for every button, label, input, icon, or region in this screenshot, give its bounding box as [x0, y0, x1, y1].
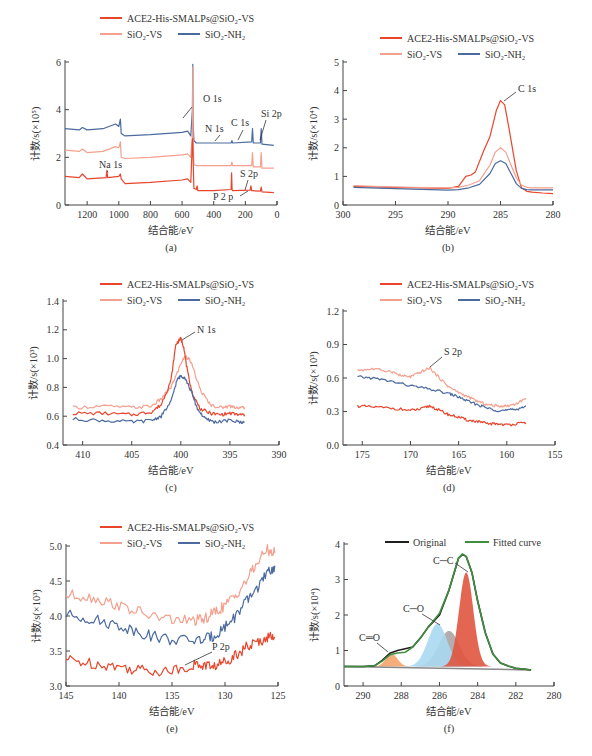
x-tick-label: 170: [403, 449, 418, 460]
x-tick-label: 0: [275, 209, 280, 220]
x-tick-label: 280: [547, 690, 562, 701]
annotation-leader: [430, 357, 442, 367]
y-tick-label: 0: [335, 681, 340, 692]
y-axis-label: 计数/s(×10³): [27, 346, 40, 400]
x-axis-label: 结合能/eV: [425, 224, 471, 236]
x-tick-label: 410: [75, 449, 90, 460]
annotation-leader: [182, 332, 195, 340]
x-tick-label: 165: [451, 449, 466, 460]
y-tick-label: 1.4: [47, 296, 60, 307]
y-tick-label: 3.0: [50, 681, 63, 692]
x-tick-label: 1200: [77, 209, 97, 220]
y-tick-label: 4.5: [50, 576, 63, 587]
legend-label-original: Original: [413, 537, 447, 548]
chart-panel-b: 300295290285280012345结合能/eV计数/s(×10⁴)(b)…: [307, 33, 561, 255]
x-tick-label: 395: [222, 449, 237, 460]
x-tick-label: 290: [441, 209, 456, 220]
y-tick-label: 3: [334, 114, 339, 125]
x-tick-label: 288: [394, 690, 409, 701]
x-tick-label: 175: [355, 449, 370, 460]
x-tick-label: 285: [493, 209, 508, 220]
peak-annotation: P 2p: [212, 641, 230, 652]
peak-annotation: N 1s: [197, 324, 216, 335]
xps-figure: 1200100080060040020000246结合能/eV计数/s(×10⁵…: [0, 0, 592, 756]
x-tick-label: 1000: [109, 209, 129, 220]
series-line-sio2_vs: [73, 356, 245, 409]
legend: ACE2-His-SMALPs@SiO₂-VSSiO₂-VSSiO₂-NH₂: [100, 522, 254, 549]
y-tick-label: 1: [334, 171, 339, 182]
y-tick-label: 1.0: [47, 353, 60, 364]
y-tick-label: 1.2: [47, 324, 60, 335]
legend-label-fitted: Fitted curve: [493, 537, 542, 548]
series-line-sio2_nh2: [65, 64, 274, 145]
y-tick-label: 2: [335, 610, 340, 621]
peak-annotation: P 2 p: [213, 191, 233, 202]
y-tick-label: 6: [56, 57, 61, 68]
peak-annotation: O 1s: [203, 93, 222, 104]
peak-annotation: C─O: [403, 603, 424, 614]
x-tick-label: 400: [173, 449, 188, 460]
y-tick-label: 3.5: [50, 646, 63, 657]
panel-label: (d): [443, 482, 456, 494]
legend-label-sio2-nh2: SiO₂-NH₂: [205, 295, 245, 306]
y-tick-label: 0.0: [327, 440, 340, 451]
series-line-sio2_vs: [354, 148, 554, 188]
y-tick-label: 1: [335, 645, 340, 656]
panel-label: (a): [165, 242, 177, 254]
x-tick-label: 280: [546, 209, 561, 220]
panel-label: (c): [165, 482, 177, 494]
peak-annotation: C 1s: [518, 83, 536, 94]
legend-label-ace2: ACE2-His-SMALPs@SiO₂-VS: [407, 279, 534, 290]
series-line-ace2: [66, 632, 275, 676]
peak-annotation: C═O: [359, 632, 380, 643]
y-axis-label: 计数/s(×10⁵): [29, 106, 42, 161]
y-tick-label: 5: [334, 57, 339, 68]
x-tick-label: 135: [165, 690, 180, 701]
x-tick-label: 600: [175, 209, 190, 220]
series-line-sio2_nh2: [66, 566, 275, 645]
peak-annotation: S 2p: [444, 346, 462, 357]
y-axis-label: 计数/s(×10⁴): [308, 587, 321, 642]
x-axis-label: 结合能/eV: [426, 705, 472, 717]
y-tick-label: 4: [334, 85, 339, 96]
legend-label-sio2-vs: SiO₂-VS: [407, 295, 442, 306]
x-tick-label: 405: [124, 449, 139, 460]
x-tick-label: 155: [548, 449, 563, 460]
legend-label-sio2-nh2: SiO₂-NH₂: [485, 295, 525, 306]
y-axis-label: 计数/s(×10³): [30, 589, 43, 643]
legend: ACE2-His-SMALPs@SiO₂-VSSiO₂-VSSiO₂-NH₂: [380, 279, 534, 306]
annotation-leader: [215, 135, 220, 141]
y-tick-label: 3: [335, 574, 340, 585]
annotation-leader: [183, 107, 192, 118]
legend-label-ace2: ACE2-His-SMALPs@SiO₂-VS: [407, 33, 534, 44]
x-tick-label: 145: [59, 690, 74, 701]
peak-annotation: N 1s: [205, 123, 224, 134]
legend-label-sio2-vs: SiO₂-VS: [127, 538, 162, 549]
chart-panel-d: 1751701651601550.00.30.60.91.2结合能/eV计数/s…: [307, 279, 563, 495]
legend: ACE2-His-SMALPs@SiO₂-VSSiO₂-VSSiO₂-NH₂: [100, 13, 254, 40]
x-tick-label: 800: [143, 209, 158, 220]
legend-label-ace2: ACE2-His-SMALPs@SiO₂-VS: [127, 522, 254, 533]
y-tick-label: 0.8: [47, 382, 60, 393]
x-tick-label: 200: [238, 209, 253, 220]
y-tick-label: 0.6: [47, 411, 60, 422]
legend-label-ace2: ACE2-His-SMALPs@SiO₂-VS: [127, 13, 254, 24]
y-tick-label: 1.2: [327, 306, 340, 317]
y-tick-label: 2: [56, 152, 61, 163]
annotation-leader: [504, 92, 516, 101]
legend-label-sio2-nh2: SiO₂-NH₂: [485, 49, 525, 60]
chart-panel-f: 29028828628428228001234结合能/eV计数/s(×10⁴)(…: [308, 537, 562, 736]
annotation-leader: [185, 652, 212, 665]
x-tick-label: 400: [206, 209, 221, 220]
x-axis-label: 结合能/eV: [149, 705, 195, 717]
x-tick-label: 300: [336, 209, 351, 220]
x-tick-label: 130: [218, 690, 233, 701]
panel-label: (f): [444, 723, 455, 735]
legend-label-sio2-vs: SiO₂-VS: [127, 295, 162, 306]
y-tick-label: 4.0: [50, 611, 63, 622]
y-tick-label: 0: [56, 200, 61, 211]
x-tick-label: 286: [432, 690, 447, 701]
series-line-sio2_vs: [66, 545, 275, 626]
y-tick-label: 2: [334, 142, 339, 153]
legend-label-ace2: ACE2-His-SMALPs@SiO₂-VS: [127, 279, 254, 290]
